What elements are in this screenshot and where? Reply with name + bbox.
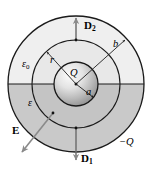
center-charge-label: Q: [70, 68, 78, 79]
center-charge-label-text: Q: [70, 67, 78, 78]
epsilon-zero-label: ε0: [22, 59, 29, 71]
d1-label-text: D: [81, 152, 89, 164]
radius-r-label: r: [50, 55, 54, 66]
radius-b-label-text: b: [113, 38, 118, 49]
e-field-anchor-point: [52, 112, 55, 115]
d1-label: D1: [81, 153, 93, 166]
radius-b-label: b: [113, 39, 118, 50]
radius-a-label-text: a: [86, 86, 91, 97]
physics-figure: D2 D1 E ε0 ε Q a b r −Q: [0, 0, 152, 179]
d2-label-subscript: 2: [92, 24, 96, 33]
figure-canvas: [0, 0, 152, 179]
epsilon-label: ε: [28, 98, 32, 108]
d2-anchor-point: [75, 39, 78, 42]
outer-charge-label: −Q: [119, 137, 134, 148]
d2-label-text: D: [84, 19, 92, 31]
epsilon-label-text: ε: [28, 97, 32, 108]
epsilon-zero-label-subscript: 0: [26, 63, 30, 71]
e-field-label-text: E: [12, 124, 19, 136]
radius-r-label-text: r: [50, 54, 54, 65]
radius-a-label: a: [86, 87, 91, 98]
outer-charge-label-text: −Q: [119, 136, 134, 147]
e-field-label: E: [12, 125, 19, 136]
d1-label-subscript: 1: [89, 157, 93, 166]
d1-anchor-point: [75, 127, 78, 130]
d2-label: D2: [84, 20, 96, 33]
